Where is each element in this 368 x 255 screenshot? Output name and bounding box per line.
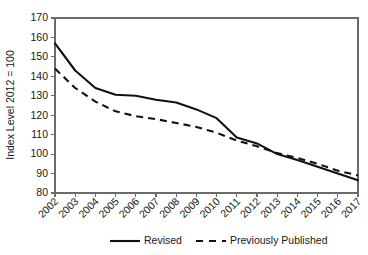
y-tick-label: 90 (36, 167, 48, 179)
y-tick-label: 160 (30, 31, 48, 43)
x-axis: 2002200320042005200620072008200920102011… (35, 193, 363, 220)
y-axis-title: Index Level 2012 = 100 (4, 50, 16, 160)
plot-area-border (55, 18, 358, 193)
x-tick-label: 2009 (177, 195, 202, 220)
x-tick-label: 2002 (35, 195, 60, 220)
legend-label-previously-published: Previously Published (230, 234, 328, 246)
y-tick-label: 120 (30, 109, 48, 121)
y-tick-label: 130 (30, 89, 48, 101)
x-tick-label: 2016 (318, 195, 343, 220)
x-tick-label: 2017 (338, 195, 363, 220)
x-tick-label: 2010 (197, 195, 222, 220)
x-tick-label: 2008 (157, 195, 182, 220)
x-tick-label: 2003 (56, 195, 81, 220)
y-tick-label: 80 (36, 186, 48, 198)
y-tick-label: 140 (30, 70, 48, 82)
plot-frame (55, 18, 358, 193)
y-tick-label: 170 (30, 11, 48, 23)
x-tick-label: 2006 (116, 195, 141, 220)
x-tick-label: 2015 (298, 195, 323, 220)
legend-label-revised: Revised (144, 234, 182, 246)
x-tick-label: 2013 (258, 195, 283, 220)
line-chart: 8090100110120130140150160170 20022003200… (0, 0, 368, 255)
x-tick-label: 2014 (278, 195, 303, 220)
chart-container: 8090100110120130140150160170 20022003200… (0, 0, 368, 255)
x-tick-label: 2005 (96, 195, 121, 220)
x-tick-label: 2012 (237, 195, 262, 220)
chart-legend: Revised Previously Published (110, 234, 328, 246)
y-tick-label: 150 (30, 50, 48, 62)
x-tick-label: 2007 (136, 195, 161, 220)
y-tick-label: 100 (30, 147, 48, 159)
x-tick-label: 2004 (76, 195, 101, 220)
y-axis: 8090100110120130140150160170 (30, 11, 55, 198)
x-tick-label: 2011 (218, 195, 243, 220)
y-tick-label: 110 (31, 128, 48, 140)
